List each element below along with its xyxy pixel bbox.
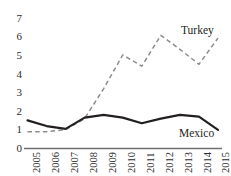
x-axis-tick-2013: 2013 [184,152,195,173]
x-axis-tick-2008: 2008 [89,152,100,173]
x-axis: 2005 2006 2007 2008 2009 2010 2011 2012 … [0,0,231,176]
x-axis-tick-2015: 2015 [221,152,231,173]
x-axis-tick-2005: 2005 [32,152,43,173]
x-axis-tick-2007: 2007 [70,152,81,173]
x-axis-tick-2011: 2011 [146,152,157,173]
line-chart: 7 6 5 4 3 2 1 0 Turkey Mexico 2005 2006 … [0,0,231,176]
x-axis-tick-2012: 2012 [165,152,176,173]
x-axis-tick-2014: 2014 [203,152,214,173]
x-axis-tick-2010: 2010 [127,152,138,173]
x-axis-tick-2006: 2006 [51,152,62,173]
x-axis-tick-2009: 2009 [108,152,119,173]
